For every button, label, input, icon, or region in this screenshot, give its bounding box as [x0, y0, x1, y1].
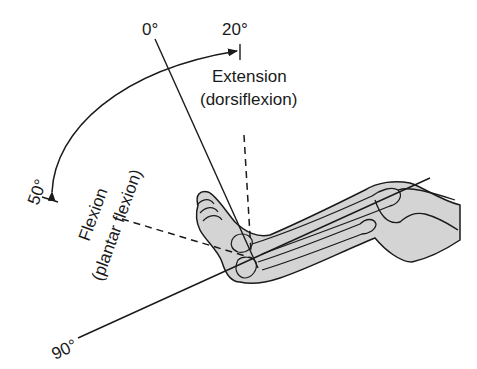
extension-label: Extension	[212, 67, 287, 86]
twenty-degree-label: 20°	[222, 20, 248, 39]
leg-illustration	[196, 182, 460, 284]
dorsiflexion-label: (dorsiflexion)	[200, 90, 297, 109]
fifty-degree-label: 50°	[24, 177, 51, 208]
zero-degree-label: 0°	[142, 20, 158, 39]
ankle-rom-diagram: 0° 20° Extension (dorsiflexion) 50° Flex…	[0, 0, 477, 369]
range-of-motion-arc	[52, 51, 237, 192]
ninety-degree-label: 90°	[49, 336, 80, 364]
